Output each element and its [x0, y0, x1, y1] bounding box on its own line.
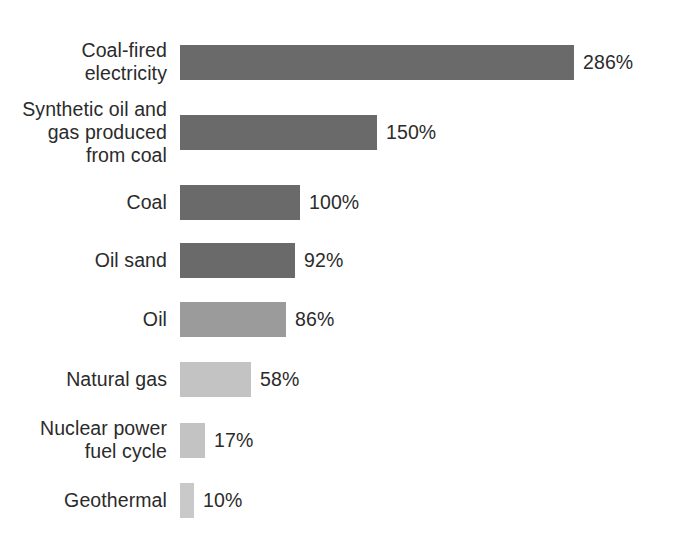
bar-row: Oil sand92%	[0, 238, 675, 282]
category-label: Geothermal	[0, 489, 180, 512]
bar	[180, 362, 251, 397]
category-label: Coal-fired electricity	[0, 39, 180, 85]
bar-row: Natural gas58%	[0, 357, 675, 401]
category-label: Nuclear power fuel cycle	[0, 417, 180, 463]
value-label: 58%	[260, 368, 299, 390]
bar	[180, 45, 574, 80]
category-label: Oil	[0, 308, 180, 331]
horizontal-bar-chart: Coal-fired electricity286%Synthetic oil …	[0, 0, 675, 536]
bar	[180, 185, 300, 220]
bar-and-value: 58%	[180, 362, 675, 397]
bar-and-value: 17%	[180, 423, 675, 458]
bar	[180, 423, 205, 458]
bar-and-value: 286%	[180, 45, 675, 80]
bar-and-value: 150%	[180, 115, 675, 150]
category-label: Oil sand	[0, 249, 180, 272]
value-label: 100%	[309, 191, 359, 213]
bar-and-value: 10%	[180, 483, 675, 518]
bar-row: Coal100%	[0, 180, 675, 224]
category-label: Synthetic oil and gas produced from coal	[0, 98, 180, 167]
chart-plot-area: Coal-fired electricity286%Synthetic oil …	[0, 0, 675, 536]
value-label: 17%	[214, 429, 253, 451]
bar	[180, 483, 194, 518]
value-label: 150%	[386, 121, 436, 143]
bar-and-value: 86%	[180, 302, 675, 337]
value-label: 92%	[304, 249, 343, 271]
bar	[180, 243, 295, 278]
value-label: 286%	[583, 51, 633, 73]
value-label: 10%	[203, 489, 242, 511]
bar-row: Synthetic oil and gas produced from coal…	[0, 110, 675, 154]
category-label: Coal	[0, 191, 180, 214]
bar-and-value: 100%	[180, 185, 675, 220]
value-label: 86%	[295, 308, 334, 330]
bar-row: Geothermal10%	[0, 478, 675, 522]
bar-and-value: 92%	[180, 243, 675, 278]
bar-row: Coal-fired electricity286%	[0, 40, 675, 84]
bar	[180, 115, 377, 150]
bar-row: Nuclear power fuel cycle17%	[0, 418, 675, 462]
category-label: Natural gas	[0, 368, 180, 391]
bar-row: Oil86%	[0, 297, 675, 341]
bar	[180, 302, 286, 337]
